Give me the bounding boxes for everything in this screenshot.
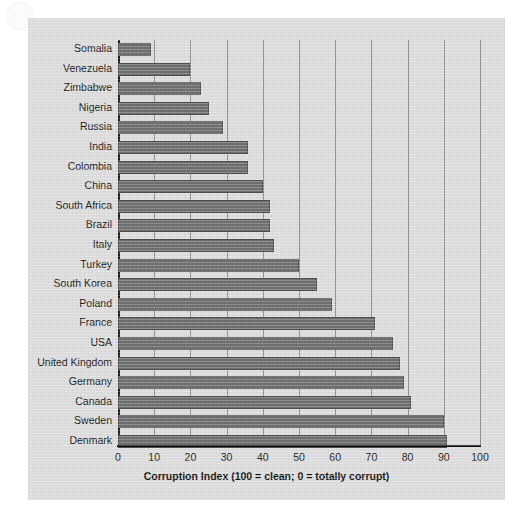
bar-south-africa [118, 200, 270, 213]
category-label-brazil: Brazil [86, 217, 112, 232]
bar-colombia [118, 161, 248, 174]
bar-row: United Kingdom [118, 354, 480, 374]
bar-russia [118, 121, 223, 134]
x-axis-title: Corruption Index (100 = clean; 0 = total… [28, 470, 505, 482]
bar-canada [118, 396, 411, 409]
bar-united-kingdom [118, 357, 400, 370]
bar-row: Brazil [118, 216, 480, 236]
category-label-china: China [85, 178, 112, 193]
category-label-canada: Canada [75, 394, 112, 409]
bar-row: Sweden [118, 412, 480, 432]
bar-south-korea [118, 278, 317, 291]
category-label-poland: Poland [79, 296, 112, 311]
bar-row: South Korea [118, 275, 480, 295]
bar-row: Poland [118, 295, 480, 315]
category-label-venezuela: Venezuela [63, 61, 112, 76]
bar-china [118, 180, 263, 193]
bar-row: Venezuela [118, 60, 480, 80]
bar-brazil [118, 219, 270, 232]
tick-label-100: 100 [471, 451, 489, 463]
plot-area: SomaliaVenezuelaZimbabweNigeriaRussiaInd… [118, 40, 480, 445]
bar-turkey [118, 259, 299, 272]
tick-label-60: 60 [329, 451, 341, 463]
tick-label-10: 10 [148, 451, 160, 463]
tick-label-0: 0 [115, 451, 121, 463]
bar-row: Somalia [118, 40, 480, 60]
bar-row: Turkey [118, 256, 480, 276]
tick-label-90: 90 [438, 451, 450, 463]
tick-label-70: 70 [366, 451, 378, 463]
tick-label-50: 50 [293, 451, 305, 463]
bar-india [118, 141, 248, 154]
bar-row: Canada [118, 393, 480, 413]
bar-row: India [118, 138, 480, 158]
bar-row: Germany [118, 373, 480, 393]
category-label-germany: Germany [69, 374, 112, 389]
bar-row: Nigeria [118, 99, 480, 119]
bar-row: China [118, 177, 480, 197]
category-label-south-africa: South Africa [55, 198, 112, 213]
category-label-somalia: Somalia [74, 41, 112, 56]
tick-label-30: 30 [221, 451, 233, 463]
bar-poland [118, 298, 332, 311]
category-label-india: India [89, 139, 112, 154]
bar-row: Zimbabwe [118, 79, 480, 99]
bar-usa [118, 337, 393, 350]
bar-row: Denmark [118, 432, 480, 452]
bar-venezuela [118, 63, 190, 76]
bar-row: Russia [118, 118, 480, 138]
category-label-colombia: Colombia [68, 159, 112, 174]
bar-row: France [118, 314, 480, 334]
gridline-100 [480, 40, 481, 445]
x-axis-line [117, 445, 481, 447]
category-label-denmark: Denmark [69, 433, 112, 448]
bar-nigeria [118, 102, 209, 115]
bar-row: Colombia [118, 158, 480, 178]
chart-panel: SomaliaVenezuelaZimbabweNigeriaRussiaInd… [28, 18, 505, 500]
category-label-italy: Italy [93, 237, 112, 252]
bar-row: South Africa [118, 197, 480, 217]
category-label-nigeria: Nigeria [79, 100, 112, 115]
bar-zimbabwe [118, 82, 201, 95]
bar-row: Italy [118, 236, 480, 256]
bar-row: USA [118, 334, 480, 354]
tick-label-40: 40 [257, 451, 269, 463]
category-label-zimbabwe: Zimbabwe [64, 80, 112, 95]
category-label-russia: Russia [80, 119, 112, 134]
category-label-turkey: Turkey [80, 257, 112, 272]
category-label-sweden: Sweden [74, 413, 112, 428]
bar-france [118, 317, 375, 330]
bar-italy [118, 239, 274, 252]
bar-somalia [118, 43, 151, 56]
category-label-usa: USA [90, 335, 112, 350]
category-label-united-kingdom: United Kingdom [37, 355, 112, 370]
category-label-france: France [79, 315, 112, 330]
category-label-south-korea: South Korea [54, 276, 112, 291]
tick-label-20: 20 [185, 451, 197, 463]
tick-label-80: 80 [402, 451, 414, 463]
bar-germany [118, 376, 404, 389]
bar-sweden [118, 415, 444, 428]
